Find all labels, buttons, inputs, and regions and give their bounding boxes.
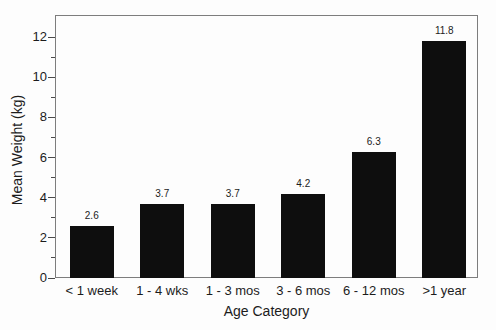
bar — [70, 226, 114, 278]
y-tick-label: 12 — [15, 29, 47, 45]
y-major-tick — [48, 117, 55, 118]
bar — [140, 204, 184, 278]
bar-value-label: 3.7 — [132, 188, 192, 200]
bar — [352, 152, 396, 278]
bar-value-label: 4.2 — [273, 178, 333, 190]
y-major-tick — [48, 237, 55, 238]
y-tick-label: 2 — [15, 230, 47, 246]
y-tick-label: 6 — [15, 150, 47, 166]
y-major-tick — [48, 197, 55, 198]
bar-value-label: 2.6 — [62, 210, 122, 222]
y-tick-label: 0 — [15, 270, 47, 286]
y-tick-label: 10 — [15, 69, 47, 85]
y-minor-tick — [51, 97, 55, 98]
y-minor-tick — [51, 257, 55, 258]
y-major-tick — [48, 77, 55, 78]
y-major-tick — [48, 157, 55, 158]
y-major-tick — [48, 37, 55, 38]
bar-value-label: 11.8 — [414, 25, 474, 37]
bar-value-label: 3.7 — [203, 188, 263, 200]
bar — [211, 204, 255, 278]
y-minor-tick — [51, 57, 55, 58]
bar — [281, 194, 325, 278]
bar-value-label: 6.3 — [344, 136, 404, 148]
x-category-label: >1 year — [398, 283, 490, 298]
y-major-tick — [48, 278, 55, 279]
y-tick-label: 4 — [15, 190, 47, 206]
plot-area — [55, 15, 478, 278]
x-axis-title: Age Category — [55, 303, 478, 319]
y-minor-tick — [51, 177, 55, 178]
y-minor-tick — [51, 217, 55, 218]
y-minor-tick — [51, 137, 55, 138]
bar — [422, 41, 466, 278]
y-tick-label: 8 — [15, 109, 47, 125]
bar-chart-figure: Mean Weight (kg) Age Category 0246810122… — [0, 0, 496, 330]
